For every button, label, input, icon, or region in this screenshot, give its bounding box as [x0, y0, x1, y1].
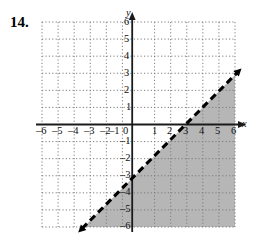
x-tick-label--4: –4 [68, 126, 79, 136]
y-tick-label--4: –4 [120, 187, 131, 197]
y-tick-label--5: –5 [120, 204, 131, 214]
y-tick-label-3: 3 [124, 68, 129, 78]
y-tick-label-6: 6 [124, 17, 129, 27]
y-tick-label-2: 2 [124, 85, 129, 95]
x-axis-label: x [242, 119, 247, 129]
y-tick-label--1: –1 [120, 136, 131, 146]
x-tick-label-3: 3 [183, 126, 188, 136]
y-tick-label-5: 5 [124, 34, 129, 44]
problem-number: 14. [10, 14, 29, 31]
y-tick-label--2: –2 [120, 153, 131, 163]
y-tick-label-1: 1 [126, 102, 131, 112]
graph-figure: 14. [0, 0, 258, 236]
x-tick-label-2: 2 [167, 126, 172, 136]
x-tick-label--3: –3 [84, 126, 95, 136]
y-tick-label--6: –6 [120, 221, 131, 231]
y-tick-label--3: –3 [120, 170, 131, 180]
y-tick-label-4: 4 [124, 51, 129, 61]
x-tick-label-1: 1 [152, 126, 157, 136]
x-tick-label-4: 4 [199, 126, 204, 136]
x-tick-label-6: 6 [231, 126, 236, 136]
x-tick-label--6: –6 [36, 126, 47, 136]
x-tick-label--1: –1 [109, 126, 120, 136]
x-tick-label-5: 5 [215, 126, 220, 136]
x-tick-label--5: –5 [52, 126, 63, 136]
